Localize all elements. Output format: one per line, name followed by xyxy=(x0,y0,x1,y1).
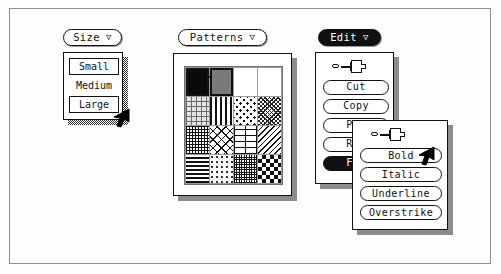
font-item-underline[interactable]: Underline xyxy=(360,186,442,201)
font-item-italic[interactable]: Italic xyxy=(360,167,442,182)
size-menu-panel: Small Medium Large xyxy=(63,52,123,120)
pattern-swatch-solid-black[interactable] xyxy=(186,68,209,96)
chevron-down-icon: ▽ xyxy=(363,33,369,42)
pattern-swatch-vertical-bars[interactable] xyxy=(210,97,233,125)
thumbtack-icon[interactable] xyxy=(332,60,368,74)
chevron-down-icon: ▽ xyxy=(249,33,255,42)
pattern-swatch-brick[interactable] xyxy=(234,126,257,154)
edit-item-cut[interactable]: Cut xyxy=(323,80,389,95)
size-item-small[interactable]: Small xyxy=(69,58,119,75)
pattern-swatch-dense-mesh[interactable] xyxy=(258,97,281,125)
pattern-swatch-grid xyxy=(184,66,283,185)
figure-canvas: Size ▽ Small Medium Large Patterns ▽ xyxy=(0,0,501,274)
size-item-medium-label: Medium xyxy=(76,80,112,91)
font-item-italic-label: Italic xyxy=(382,170,421,180)
pattern-swatch-wavy-lines[interactable] xyxy=(234,68,257,96)
edit-item-copy-label: Copy xyxy=(343,101,369,112)
font-submenu-panel: Bold Italic Underline Overstrike xyxy=(352,120,448,230)
pattern-swatch-interlocked-circles[interactable] xyxy=(234,97,257,125)
font-item-bold[interactable]: Bold xyxy=(360,148,442,163)
chevron-down-icon: ▽ xyxy=(106,33,112,42)
edit-item-copy[interactable]: Copy xyxy=(323,99,389,114)
patterns-menu-title-label: Patterns xyxy=(190,32,244,43)
pattern-swatch-fine-grid[interactable] xyxy=(186,126,209,154)
edit-menu-title-label: Edit xyxy=(330,32,357,43)
size-item-small-label: Small xyxy=(79,61,109,72)
patterns-menu-title-button[interactable]: Patterns ▽ xyxy=(178,29,267,46)
edit-menu-title-button[interactable]: Edit ▽ xyxy=(318,29,381,46)
size-menu-title-button[interactable]: Size ▽ xyxy=(63,29,122,46)
pattern-swatch-solid-gray[interactable] xyxy=(210,68,233,96)
size-menu-title-label: Size xyxy=(73,32,100,43)
pattern-swatch-dotted-grid[interactable] xyxy=(186,97,209,125)
pattern-swatch-diagonal-lines[interactable] xyxy=(258,126,281,154)
pattern-swatch-horizontal-bars[interactable] xyxy=(186,155,209,183)
font-item-underline-label: Underline xyxy=(372,189,430,199)
font-item-bold-label: Bold xyxy=(388,151,414,161)
pattern-swatch-cross-hatch[interactable] xyxy=(210,126,233,154)
pattern-swatch-solid-white[interactable] xyxy=(258,68,281,96)
size-item-large[interactable]: Large xyxy=(69,96,119,113)
pattern-swatch-tight-grid[interactable] xyxy=(234,155,257,183)
pattern-swatch-checkerboard[interactable] xyxy=(258,155,281,183)
pattern-swatch-sparse-dots[interactable] xyxy=(210,155,233,183)
thumbtack-icon[interactable] xyxy=(371,128,407,142)
font-item-overstrike-label: Overstrike xyxy=(369,208,433,218)
size-item-large-label: Large xyxy=(79,99,109,110)
font-item-overstrike[interactable]: Overstrike xyxy=(360,205,442,220)
edit-item-cut-label: Cut xyxy=(346,82,365,93)
size-item-medium[interactable]: Medium xyxy=(69,77,119,94)
patterns-menu-panel xyxy=(173,53,292,196)
